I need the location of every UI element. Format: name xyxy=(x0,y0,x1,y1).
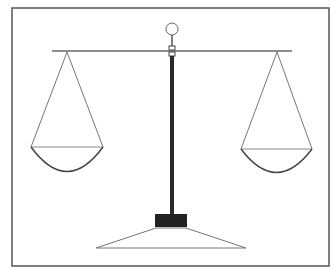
balance-scale-diagram xyxy=(0,0,336,272)
scale-drawing xyxy=(0,0,336,272)
pivot-collar xyxy=(169,52,175,56)
knob-circle xyxy=(166,23,178,35)
base-block xyxy=(155,214,187,227)
center-pole xyxy=(170,56,174,214)
pivot-bracket xyxy=(169,46,175,50)
